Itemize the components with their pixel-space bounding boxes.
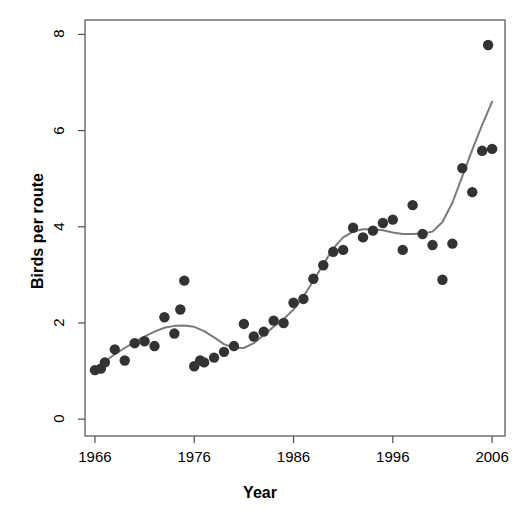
x-tick-label: 1986 [259, 448, 329, 465]
x-tick-label: 2006 [457, 448, 520, 465]
x-axis-title: Year [0, 484, 520, 502]
plot-canvas [0, 0, 520, 513]
y-tick-label: 0 [50, 399, 67, 439]
smoother-line [95, 102, 492, 369]
data-points [90, 40, 498, 375]
y-tick-label: 2 [50, 302, 67, 342]
plot-frame [85, 20, 505, 436]
axis-ticks [78, 34, 492, 443]
y-tick-label: 6 [50, 110, 67, 150]
y-tick-label: 8 [50, 14, 67, 54]
y-axis-title: Birds per route [29, 131, 47, 331]
x-tick-label: 1996 [358, 448, 428, 465]
chart-figure: 02468 19661976198619962006 Birds per rou… [0, 0, 520, 513]
x-tick-label: 1966 [60, 448, 130, 465]
y-tick-label: 4 [50, 206, 67, 246]
x-tick-label: 1976 [159, 448, 229, 465]
